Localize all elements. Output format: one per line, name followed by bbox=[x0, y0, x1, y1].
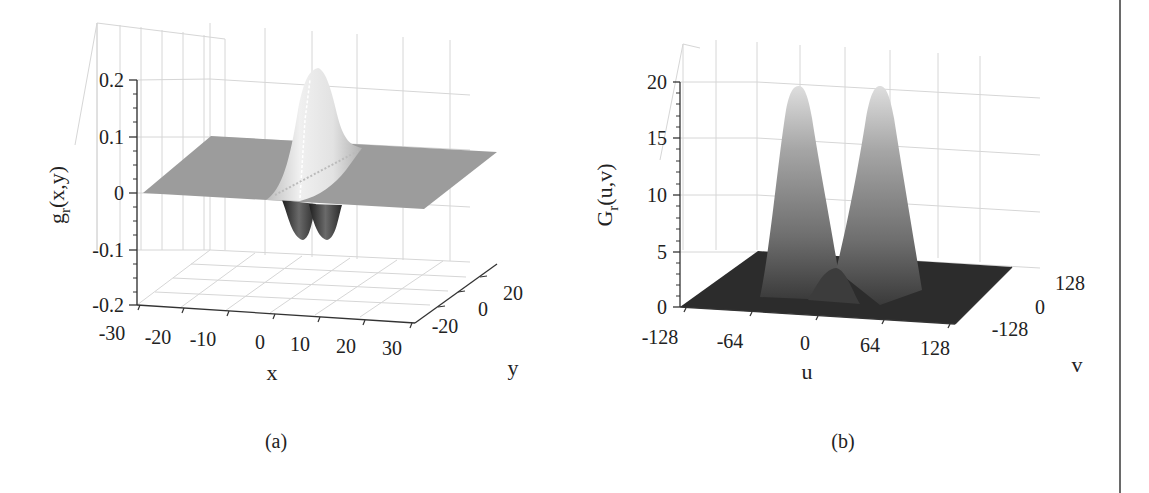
svg-text:gr(x,y): gr(x,y) bbox=[44, 166, 73, 224]
z-tick-label: 0.2 bbox=[99, 69, 124, 91]
x-tick-label: 0 bbox=[800, 332, 810, 354]
panel-a-y-axis: -20 0 20 y bbox=[415, 264, 523, 380]
x-tick-label: 30 bbox=[382, 337, 402, 359]
panel-caption-a: (a) bbox=[265, 430, 287, 453]
x-tick-label: 10 bbox=[290, 333, 310, 355]
panel-a: 0.2 0.1 0 -0.1 -0.2 gr(x,y) -30 -20 -10 … bbox=[44, 23, 523, 453]
x-tick-label: -20 bbox=[145, 326, 172, 348]
panel-a-z-label: gr(x,y) bbox=[44, 166, 73, 224]
x-axis-label: u bbox=[802, 359, 813, 384]
panel-caption-b: (b) bbox=[831, 430, 854, 453]
x-tick-label: 20 bbox=[336, 335, 356, 357]
panel-b-surface bbox=[680, 86, 1012, 324]
y-tick-label: -128 bbox=[992, 318, 1029, 340]
panel-b: 20 15 10 5 0 Gr(u,v) -128 -64 0 64 128 u bbox=[592, 40, 1085, 453]
z-tick-label: 0.1 bbox=[99, 126, 124, 148]
x-tick-label: 128 bbox=[920, 337, 950, 359]
page-border-line bbox=[1119, 0, 1121, 493]
z-label-rest: (u,v) bbox=[592, 163, 617, 205]
z-tick-label: 15 bbox=[647, 127, 667, 149]
z-tick-label: -0.2 bbox=[92, 294, 124, 316]
svg-text:Gr(u,v): Gr(u,v) bbox=[592, 163, 621, 226]
z-tick-label: 0 bbox=[657, 296, 667, 318]
z-tick-label: 0 bbox=[114, 182, 124, 204]
y-tick-label: -20 bbox=[432, 315, 459, 337]
y-tick-label: 0 bbox=[478, 298, 488, 320]
panel-b-z-label: Gr(u,v) bbox=[592, 163, 621, 226]
panel-b-z-axis: 20 15 10 5 0 bbox=[647, 71, 680, 318]
z-tick-label: 20 bbox=[647, 71, 667, 93]
x-tick-label: 0 bbox=[255, 331, 265, 353]
panel-a-z-axis: 0.2 0.1 0 -0.1 -0.2 bbox=[92, 69, 137, 316]
z-tick-label: 5 bbox=[657, 241, 667, 263]
y-tick-label: 128 bbox=[1055, 272, 1085, 294]
z-tick-label: 10 bbox=[647, 184, 667, 206]
y-tick-label: 0 bbox=[1035, 296, 1045, 318]
y-tick-label: 20 bbox=[503, 282, 523, 304]
z-tick-label: -0.1 bbox=[92, 239, 124, 261]
x-tick-label: -128 bbox=[642, 326, 679, 348]
z-label-main: G bbox=[592, 211, 617, 227]
x-axis-label: x bbox=[267, 360, 278, 385]
x-tick-label: -30 bbox=[99, 322, 126, 344]
y-axis-label: y bbox=[508, 355, 519, 380]
x-tick-label: -10 bbox=[190, 328, 217, 350]
x-tick-label: 64 bbox=[860, 334, 880, 356]
x-tick-label: -64 bbox=[717, 330, 744, 352]
z-label-main: g bbox=[44, 213, 69, 224]
panel-a-x-axis: -30 -20 -10 0 10 20 30 x bbox=[99, 305, 415, 385]
figure: 0.2 0.1 0 -0.1 -0.2 gr(x,y) -30 -20 -10 … bbox=[0, 0, 1149, 493]
z-label-rest: (x,y) bbox=[44, 166, 69, 208]
y-axis-label: v bbox=[1072, 352, 1083, 377]
